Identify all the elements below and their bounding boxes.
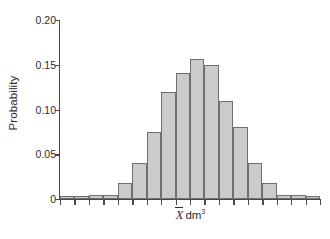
x-axis-tick-mark	[74, 200, 75, 205]
y-axis-tick-mark	[55, 20, 60, 21]
histogram-bar	[176, 73, 190, 199]
x-axis-tick-mark	[147, 200, 148, 205]
histogram-bar	[74, 196, 88, 199]
x-axis-tick-mark	[161, 200, 162, 205]
x-axis-unit: dm	[184, 209, 201, 221]
histogram-bar	[262, 183, 276, 199]
y-axis-tick-mark	[55, 65, 60, 66]
y-axis-title: Probability	[7, 75, 19, 130]
y-axis-tick-label: 0.20	[36, 14, 56, 26]
x-axis-title: Xdm3	[59, 208, 321, 223]
y-axis-tick-label: 0.15	[36, 59, 56, 71]
x-axis-tick-mark	[306, 200, 307, 205]
x-axis-unit-exponent: 3	[201, 208, 205, 215]
y-axis-tick-label: 0.05	[36, 148, 56, 160]
x-axis-tick-mark	[204, 200, 205, 205]
x-axis-tick-mark	[291, 200, 292, 205]
x-axis-tick-mark	[248, 200, 249, 205]
x-axis-tick-mark	[89, 200, 90, 205]
x-axis-tick-mark	[118, 200, 119, 205]
histogram-bar	[89, 195, 103, 199]
histogram-bar	[60, 196, 74, 199]
probability-histogram-chart: Probability 00.050.100.150.20 Xdm3	[0, 0, 330, 239]
histogram-bar	[204, 65, 218, 199]
histogram-bar	[291, 195, 305, 199]
y-axis-tick-mark	[55, 199, 60, 200]
x-axis-tick-mark	[132, 200, 133, 205]
histogram-bar	[277, 195, 291, 199]
histogram-bar	[190, 59, 204, 199]
y-axis-tick-mark	[55, 110, 60, 111]
x-axis-tick-mark	[320, 200, 321, 205]
x-axis-tick-mark	[103, 200, 104, 205]
histogram-bar	[219, 101, 233, 199]
x-axis-tick-mark	[262, 200, 263, 205]
x-axis-tick-mark	[219, 200, 220, 205]
x-bar-symbol: X	[175, 208, 185, 222]
histogram-bar	[161, 92, 175, 199]
x-axis-tick-mark	[176, 200, 177, 205]
x-axis-tick-mark	[277, 200, 278, 205]
x-axis-tick-mark	[233, 200, 234, 205]
histogram-bar	[147, 132, 161, 199]
histogram-bar	[233, 127, 247, 199]
histogram-bars	[60, 20, 321, 199]
y-axis-tick-labels: 00.050.100.150.20	[22, 14, 56, 206]
histogram-bar	[132, 163, 146, 199]
histogram-bar	[103, 195, 117, 199]
histogram-bar	[248, 163, 262, 199]
plot-area	[59, 20, 321, 199]
histogram-bar	[306, 196, 320, 199]
x-axis-tick-mark	[190, 200, 191, 205]
histogram-bar	[118, 183, 132, 199]
y-axis-tick-mark	[55, 154, 60, 155]
x-axis-tick-mark	[60, 200, 61, 205]
y-axis-tick-label: 0.10	[36, 104, 56, 116]
